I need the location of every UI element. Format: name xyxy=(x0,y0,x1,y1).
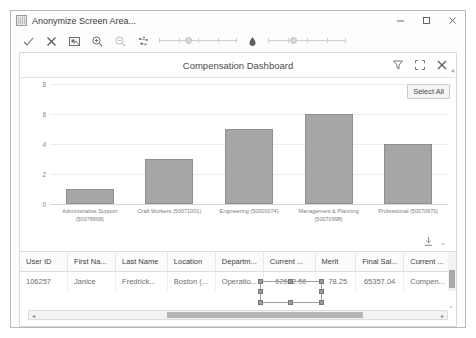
title-bar: Anonymize Screen Area... xyxy=(11,11,465,30)
resize-handle-ne[interactable] xyxy=(319,279,324,284)
slider-tick xyxy=(288,38,289,43)
scrollbar-thumb[interactable] xyxy=(167,312,363,318)
slider-tick xyxy=(198,38,199,43)
slider-tick xyxy=(307,38,308,43)
bar[interactable] xyxy=(225,129,273,204)
resize-handle-n[interactable] xyxy=(288,279,293,284)
x-axis-tick: Management & Planning (50070998) xyxy=(289,207,369,224)
data-table: User ID First Na... Last Name Location D… xyxy=(20,251,456,291)
slider-tick xyxy=(236,38,237,43)
scroll-footer: ⌄ ◂ ▸ xyxy=(20,291,456,326)
bar-slot xyxy=(209,84,289,204)
slider-knob[interactable] xyxy=(290,37,297,44)
cell-final-salary: 65357.04 xyxy=(356,272,404,292)
column-header-first-name[interactable]: First Na... xyxy=(68,252,116,272)
expand-fullscreen-icon[interactable] xyxy=(410,55,430,75)
column-header-user-id[interactable]: User ID xyxy=(20,252,68,272)
close-icon[interactable] xyxy=(432,55,452,75)
bar-series xyxy=(50,84,448,204)
scrollbar-thumb[interactable] xyxy=(449,270,455,288)
bar[interactable] xyxy=(145,159,193,204)
x-axis-tick: Professional (50070970) xyxy=(368,207,448,224)
dashboard-header: Compensation Dashboard xyxy=(20,53,456,78)
column-header-department[interactable]: Departm... xyxy=(215,252,263,272)
close-button[interactable] xyxy=(439,11,465,30)
bar[interactable] xyxy=(66,189,114,204)
slider-knob[interactable] xyxy=(185,37,192,44)
y-axis-tick: 4 xyxy=(30,141,46,148)
zoom-out-icon[interactable] xyxy=(109,31,132,51)
slider-tick xyxy=(159,38,160,43)
horizontal-scrollbar[interactable]: ◂ ▸ xyxy=(28,310,448,320)
scroll-caret-icon[interactable]: ⌄ xyxy=(448,302,454,310)
minimize-button[interactable] xyxy=(387,11,413,30)
filter-funnel-icon[interactable] xyxy=(388,55,408,75)
scroll-right-arrow-icon[interactable]: ▸ xyxy=(438,311,447,319)
window-controls xyxy=(387,11,465,30)
blur-scatter-icon[interactable] xyxy=(132,31,155,51)
x-axis-tick: Engineering (50000074) xyxy=(209,207,289,224)
resize-handle-s[interactable] xyxy=(288,300,293,305)
bar-slot xyxy=(368,84,448,204)
export-caret-icon[interactable]: ⌄ xyxy=(440,239,446,246)
resize-handle-w[interactable] xyxy=(258,289,263,294)
scroll-left-arrow-icon[interactable]: ◂ xyxy=(29,311,38,319)
dashboard-panel: Compensation Dashboard xyxy=(19,52,457,327)
column-header-merit[interactable]: Merit xyxy=(315,252,356,272)
anonymize-toolbar xyxy=(11,30,465,52)
resize-handle-se[interactable] xyxy=(319,300,324,305)
window-title: Anonymize Screen Area... xyxy=(32,16,136,26)
collapse-caret-icon[interactable]: ⱏ xyxy=(451,68,454,75)
bar-slot xyxy=(289,84,369,204)
opacity-slider[interactable] xyxy=(268,33,346,49)
cancel-x-icon[interactable] xyxy=(40,31,63,51)
resize-handle-nw[interactable] xyxy=(258,279,263,284)
bar-slot xyxy=(50,84,130,204)
select-area-icon[interactable] xyxy=(63,31,86,51)
resize-handle-e[interactable] xyxy=(319,289,324,294)
page-title: Compensation Dashboard xyxy=(183,60,293,71)
column-header-current-salary[interactable]: Current ... xyxy=(263,252,315,272)
slider-tick xyxy=(327,38,328,43)
column-header-last-name[interactable]: Last Name xyxy=(116,252,168,272)
bar[interactable] xyxy=(305,114,353,204)
cell-user-id: 106257 xyxy=(20,272,68,292)
x-axis-tick: Administrative Support (50078968) xyxy=(50,207,130,224)
blur-strength-slider[interactable] xyxy=(159,33,237,49)
application-window: Anonymize Screen Area... xyxy=(10,10,466,328)
chart-plot-area: 8 6 4 2 0 xyxy=(50,84,448,205)
export-download-icon[interactable] xyxy=(423,233,434,251)
maximize-button[interactable] xyxy=(413,11,439,30)
y-axis-tick: 8 xyxy=(30,81,46,88)
confirm-check-icon[interactable] xyxy=(17,31,40,51)
y-axis-tick: 6 xyxy=(30,111,46,118)
x-axis-tick: Craft Workers (50071001) xyxy=(130,207,210,224)
droplet-icon[interactable] xyxy=(241,31,264,51)
export-row: ⌄ xyxy=(20,233,456,251)
bar[interactable] xyxy=(384,144,432,204)
table-vertical-scrollbar[interactable] xyxy=(448,252,456,291)
bar-chart: Select All 8 6 4 2 0 xyxy=(20,78,456,233)
slider-tick xyxy=(179,38,180,43)
x-axis-labels: Administrative Support (50078968) Craft … xyxy=(50,207,448,224)
anonymize-selection-marquee[interactable] xyxy=(260,281,322,303)
zoom-in-icon[interactable] xyxy=(86,31,109,51)
slider-tick xyxy=(218,38,219,43)
dashboard-actions xyxy=(388,53,452,77)
bar-slot xyxy=(130,84,210,204)
slider-tick xyxy=(268,38,269,43)
slider-tick xyxy=(345,38,346,43)
column-header-location[interactable]: Location xyxy=(167,252,215,272)
column-header-final-salary[interactable]: Final Sal... xyxy=(356,252,404,272)
resize-handle-sw[interactable] xyxy=(258,300,263,305)
cell-first-name: Janice xyxy=(68,272,116,292)
table-row[interactable]: 106257 Janice Fredrick... Boston (... Op… xyxy=(20,272,456,292)
y-axis-tick: 0 xyxy=(30,201,46,208)
cell-last-name: Fredrick... xyxy=(116,272,168,292)
cell-department: Operatio... xyxy=(215,272,263,292)
y-axis-tick: 2 xyxy=(30,171,46,178)
table-header-row: User ID First Na... Last Name Location D… xyxy=(20,252,456,272)
screenshot-root: Anonymize Screen Area... xyxy=(0,0,476,338)
image-icon xyxy=(16,15,27,26)
select-all-button[interactable]: Select All xyxy=(407,84,450,99)
